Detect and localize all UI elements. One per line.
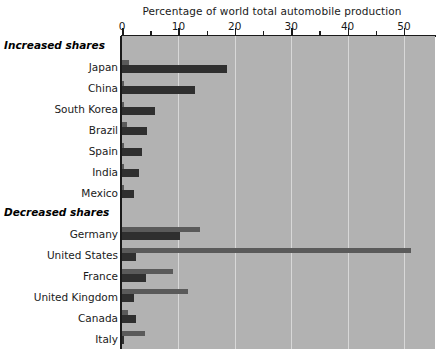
category-labels: Increased sharesJapanChinaSouth KoreaBra…: [0, 36, 118, 349]
bar-2007: [122, 86, 195, 94]
category-label: Japan: [2, 61, 118, 73]
bar-2007: [122, 148, 142, 156]
bar-2007: [122, 336, 124, 344]
bar-1960: [122, 331, 145, 336]
category-label: United Kingdom: [2, 291, 118, 303]
category-label: Spain: [2, 145, 118, 157]
bar-2007: [122, 274, 146, 282]
group-label: Decreased shares: [0, 206, 116, 218]
chart-container: Percentage of world total automobile pro…: [0, 0, 442, 364]
bar-2007: [122, 169, 139, 177]
x-axis-title: Percentage of world total automobile pro…: [122, 5, 422, 17]
category-label: Canada: [2, 312, 118, 324]
category-label: China: [2, 82, 118, 94]
category-label: France: [2, 270, 118, 282]
gridline: [291, 36, 292, 349]
bar-2007: [122, 127, 147, 135]
category-label: United States: [2, 249, 118, 261]
gridline: [178, 36, 179, 349]
gridline: [235, 36, 236, 349]
category-label: South Korea: [2, 103, 118, 115]
category-label: Germany: [2, 228, 118, 240]
gridline: [348, 36, 349, 349]
category-label: India: [2, 166, 118, 178]
bar-2007: [122, 232, 180, 240]
category-label: Italy: [2, 333, 118, 345]
bar-2007: [122, 315, 136, 323]
bar-1960: [122, 248, 411, 253]
bar-2007: [122, 253, 136, 261]
category-label: Brazil: [2, 124, 118, 136]
group-label: Increased shares: [0, 39, 116, 51]
figure-caption: [4, 357, 434, 364]
plot-area: 1960 2007: [122, 36, 435, 349]
gridline: [404, 36, 405, 349]
bar-2007: [122, 190, 134, 198]
bar-2007: [122, 65, 227, 73]
bar-2007: [122, 294, 134, 302]
bar-2007: [122, 107, 155, 115]
category-label: Mexico: [2, 187, 118, 199]
